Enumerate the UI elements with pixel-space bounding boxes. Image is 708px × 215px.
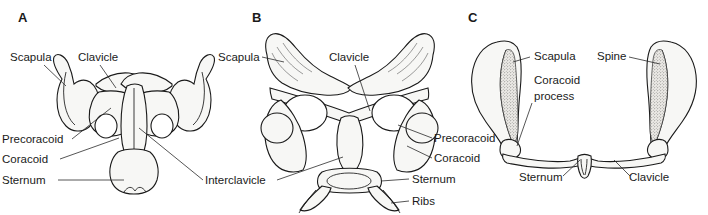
label-c-coracoid-process-line2: process [534, 90, 575, 102]
label-c-spine: Spine [597, 50, 626, 62]
label-b-precoracoid: Precoracoid [434, 132, 495, 144]
panel-a-right-fenestra [151, 114, 173, 138]
panel-letter-c: C [468, 10, 478, 25]
label-c-coracoid-process: Coracoid [534, 74, 580, 86]
panel-b-left-precoracoid [261, 113, 293, 143]
label-b-clavicle: Clavicle [329, 51, 369, 63]
panel-letter-a: A [18, 10, 28, 25]
anatomical-illustration: A B C Scapula Clavicle Precoracoid Corac… [0, 0, 708, 215]
panel-a-sternum [110, 149, 158, 194]
label-a-scapula: Scapula [10, 51, 52, 63]
label-b-ribs: Ribs [412, 195, 435, 207]
panel-b-left-rib [300, 186, 331, 211]
label-b-scapula: Scapula [218, 51, 260, 63]
figure-container: A B C Scapula Clavicle Precoracoid Corac… [0, 0, 708, 215]
panel-c-illustration [472, 41, 697, 178]
panel-b-interclavicle [337, 116, 363, 174]
leader-a-coracoid [60, 138, 119, 159]
label-b-sternum: Sternum [412, 173, 455, 185]
panel-b-right-scapula [348, 34, 434, 96]
panel-b-left-scapula [266, 34, 352, 96]
label-c-clavicle: Clavicle [629, 171, 669, 183]
label-a-precoracoid: Precoracoid [2, 133, 63, 145]
label-a-clavicle: Clavicle [78, 51, 118, 63]
label-interclavicle: Interclavicle [205, 174, 266, 186]
leader-c-coracoid-process [517, 103, 532, 146]
label-c-scapula: Scapula [534, 50, 576, 62]
label-a-sternum: Sternum [2, 174, 45, 186]
panel-letter-b: B [252, 10, 261, 25]
label-b-coracoid: Coracoid [434, 152, 480, 164]
label-c-sternum: Sternum [519, 171, 562, 183]
label-a-coracoid: Coracoid [2, 153, 48, 165]
panel-a-illustration [44, 55, 215, 194]
panel-b-right-rib [368, 186, 399, 211]
leader-b-sternum [381, 179, 409, 181]
leader-b-ribs [391, 201, 409, 203]
panel-c-sternum [578, 155, 592, 179]
